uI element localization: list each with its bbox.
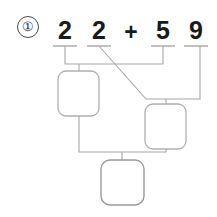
tens-sum-box[interactable] <box>58 71 99 116</box>
total-sum-box[interactable] <box>101 160 144 205</box>
ones-diagonal-path <box>99 46 200 99</box>
worksheet-problem-canvas: ① 2 2 + 5 9 <box>0 0 217 217</box>
tens-bracket-path <box>65 46 163 64</box>
ones-sum-box[interactable] <box>145 104 186 149</box>
decomposition-tree-diagram <box>0 0 217 217</box>
tens-group-connector <box>65 46 163 71</box>
ones-group-connector <box>99 46 200 104</box>
